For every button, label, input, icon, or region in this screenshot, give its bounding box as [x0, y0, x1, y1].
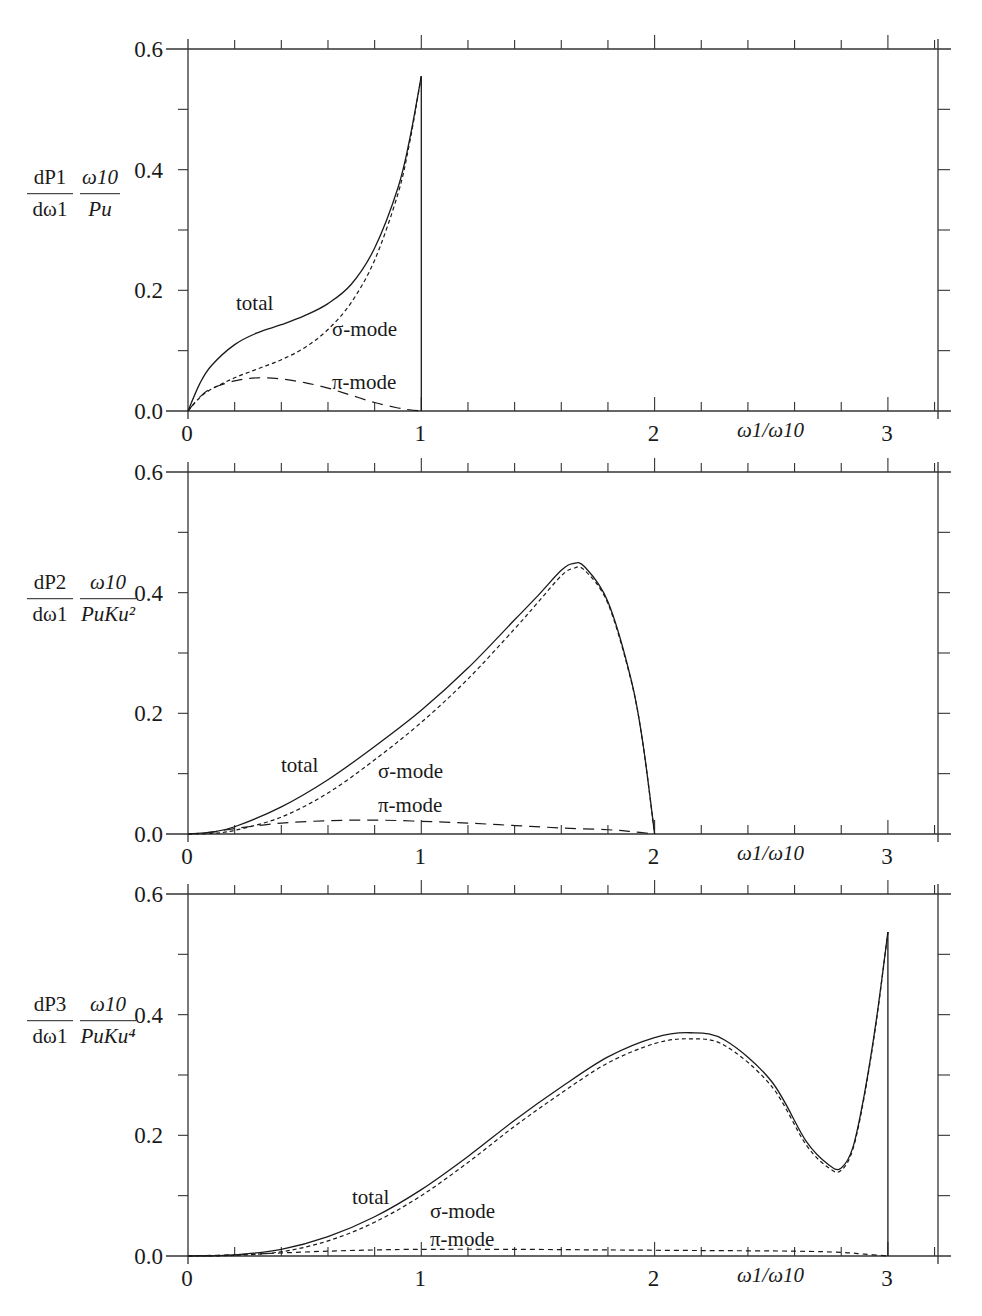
y-tick-label: 0.0	[134, 399, 163, 424]
x-axis-label: ω1/ω10	[737, 418, 804, 442]
x-tick-label: 0	[181, 1266, 193, 1291]
y-label-denominator-right: PuKu²	[80, 602, 136, 626]
label-pi-mode: π-mode	[430, 1227, 494, 1251]
y-label-numerator-right: ω10	[82, 165, 118, 189]
y-label-denominator-left: dω1	[33, 602, 68, 626]
y-label-denominator-right: PuKu⁴	[79, 1024, 135, 1048]
y-tick-label: 0.2	[134, 1123, 163, 1148]
x-tick-label: 2	[648, 1266, 660, 1291]
y-tick-label: 0.2	[134, 701, 163, 726]
y-label-numerator-left: dP3	[34, 992, 67, 1016]
x-tick-label: 0	[181, 421, 193, 446]
total-curve	[188, 932, 888, 1256]
total-curve	[188, 76, 421, 411]
y-tick-label: 0.6	[134, 460, 163, 485]
label-pi-mode: π-mode	[378, 793, 442, 817]
y-label-denominator-left: dω1	[33, 197, 68, 221]
y-tick-label: 0.4	[134, 581, 163, 606]
label-total: total	[352, 1185, 389, 1209]
sigma-mode-curve	[188, 932, 888, 1256]
x-tick-label: 3	[881, 1266, 893, 1291]
y-tick-label: 0.4	[134, 1003, 163, 1028]
y-label-numerator-right: ω10	[90, 992, 126, 1016]
label-sigma-mode: σ-mode	[332, 317, 397, 341]
x-tick-label: 1	[415, 421, 427, 446]
x-axis-label: ω1/ω10	[737, 1263, 804, 1287]
panel-1: 0.00.20.40.60123ω1/ω10dP1dω1ω10Putotalσ-…	[27, 35, 951, 446]
x-axis-label: ω1/ω10	[737, 841, 804, 865]
x-tick-label: 3	[881, 421, 893, 446]
y-tick-label: 0.0	[134, 1244, 163, 1269]
label-total: total	[236, 291, 273, 315]
label-sigma-mode: σ-mode	[378, 759, 443, 783]
y-axis-label: dP1dω1ω10Pu	[27, 165, 120, 221]
label-sigma-mode: σ-mode	[430, 1199, 495, 1223]
y-label-denominator-left: dω1	[33, 1024, 68, 1048]
x-tick-label: 1	[415, 1266, 427, 1291]
label-pi-mode: π-mode	[332, 370, 396, 394]
y-label-numerator-left: dP2	[34, 570, 67, 594]
y-label-numerator-right: ω10	[90, 570, 126, 594]
x-tick-label: 2	[648, 421, 660, 446]
x-tick-label: 1	[415, 844, 427, 869]
label-total: total	[281, 753, 318, 777]
panel-3: 0.00.20.40.60123ω1/ω10dP3dω1ω10PuKu⁴tota…	[27, 880, 951, 1291]
y-label-denominator-right: Pu	[87, 197, 111, 221]
y-label-numerator-left: dP1	[34, 165, 67, 189]
x-tick-label: 3	[881, 844, 893, 869]
panel-2: 0.00.20.40.60123ω1/ω10dP2dω1ω10PuKu²tota…	[27, 458, 951, 869]
sigma-mode-curve	[188, 76, 421, 411]
y-axis-label: dP2dω1ω10PuKu²	[27, 570, 136, 626]
y-tick-label: 0.4	[134, 158, 163, 183]
y-axis-label: dP3dω1ω10PuKu⁴	[27, 992, 136, 1048]
y-tick-label: 0.6	[134, 882, 163, 907]
y-tick-label: 0.6	[134, 37, 163, 62]
y-tick-label: 0.2	[134, 278, 163, 303]
x-tick-label: 2	[648, 844, 660, 869]
y-tick-label: 0.0	[134, 822, 163, 847]
x-tick-label: 0	[181, 844, 193, 869]
figure: 0.00.20.40.60123ω1/ω10dP1dω1ω10Putotalσ-…	[0, 0, 982, 1316]
